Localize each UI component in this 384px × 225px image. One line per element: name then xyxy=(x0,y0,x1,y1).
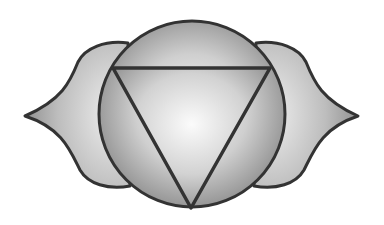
ajna-chakra-symbol xyxy=(0,0,384,225)
